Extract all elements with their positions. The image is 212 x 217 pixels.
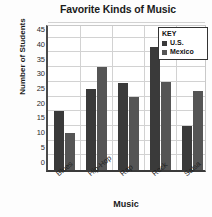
- legend-label: Mexico: [170, 48, 194, 56]
- y-tick-label: 25: [37, 85, 45, 93]
- legend-title: KEY: [162, 30, 204, 38]
- legend-entries: U.S.Mexico: [162, 39, 204, 56]
- bar-us-hiphop: [86, 89, 96, 170]
- y-tick-label: 40: [37, 41, 45, 49]
- y-tick-label: 35: [37, 56, 45, 64]
- bar-us-blues: [54, 111, 64, 170]
- legend-entry: Mexico: [162, 48, 204, 56]
- bar-group: [80, 26, 112, 170]
- legend-label: U.S.: [170, 39, 184, 47]
- y-tick-label: 20: [37, 100, 45, 108]
- y-tick-label: 45: [37, 26, 45, 34]
- y-tick-label: 30: [37, 71, 45, 79]
- chart-title: Favorite Kinds of Music: [28, 3, 208, 15]
- x-axis-label: Music: [46, 199, 206, 209]
- legend-swatch-icon: [162, 41, 167, 46]
- y-tick-label: 10: [37, 129, 45, 137]
- bar-mexico-rap: [129, 97, 139, 171]
- legend: KEY U.S.Mexico: [158, 27, 208, 60]
- y-tick-label: 15: [37, 115, 45, 123]
- bar-group: [112, 26, 144, 170]
- legend-entry: U.S.: [162, 39, 204, 47]
- bar-chart: Favorite Kinds of Music Number of Studen…: [0, 0, 212, 217]
- bar-mexico-rock: [161, 82, 171, 170]
- bar-us-rock: [150, 47, 160, 170]
- y-tick-label: 5: [41, 144, 45, 152]
- legend-swatch-icon: [162, 50, 167, 55]
- bar-mexico-salsa: [193, 91, 203, 170]
- gridline-horizontal: [48, 22, 205, 23]
- bar-group: [48, 26, 80, 170]
- y-tick-label: 0: [41, 159, 45, 167]
- bar-us-rap: [118, 83, 128, 170]
- y-axis-label: Number of Students: [18, 0, 27, 117]
